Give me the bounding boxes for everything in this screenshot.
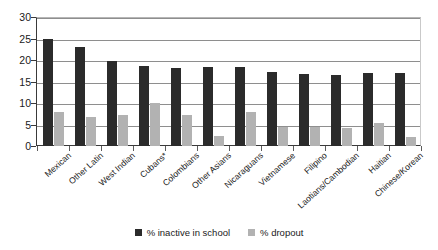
bar-group: [133, 17, 165, 146]
bar-group: [229, 17, 261, 146]
bar-inactive-in-school: [75, 47, 85, 146]
bar-group: [69, 17, 101, 146]
bar-group: [325, 17, 357, 146]
y-tick-label: 5: [3, 119, 31, 130]
bar-dropout: [150, 103, 160, 146]
chart-legend: % inactive in school % dropout: [0, 228, 438, 238]
legend-item-dropout[interactable]: % dropout: [248, 228, 303, 238]
bar-inactive-in-school: [171, 68, 181, 146]
x-axis-label: Haitian: [367, 151, 393, 176]
bar-inactive-in-school: [43, 39, 53, 147]
bar-group: [357, 17, 389, 146]
legend-label: % dropout: [260, 228, 303, 238]
bar-inactive-in-school: [331, 75, 341, 146]
bar-group: [101, 17, 133, 146]
bar-dropout: [182, 115, 192, 146]
x-axis-label: Laotians/Cambodian: [296, 151, 361, 211]
x-axis-label-text: Laotians/Cambodian: [296, 151, 361, 211]
bar-group: [37, 17, 69, 146]
bar-inactive-in-school: [107, 61, 117, 146]
bar-dropout: [278, 127, 288, 146]
bar-group: [165, 17, 197, 146]
x-axis-label-text: Haitian: [367, 151, 393, 176]
legend-label: % inactive in school: [147, 228, 230, 238]
bar-inactive-in-school: [299, 74, 309, 146]
x-tick: [421, 146, 422, 151]
y-tick-label: 20: [3, 55, 31, 66]
y-tick-label: 0: [3, 141, 31, 152]
legend-swatch-icon: [135, 229, 142, 236]
bar-inactive-in-school: [267, 72, 277, 146]
bar-group: [293, 17, 325, 146]
x-axis-labels: MexicanOther LatinWest IndianCubans*Colo…: [37, 151, 421, 219]
y-tick-label: 25: [3, 33, 31, 44]
bar-dropout: [406, 137, 416, 146]
bar-dropout: [342, 128, 352, 146]
bar-dropout: [246, 112, 256, 146]
y-tick-label: 15: [3, 76, 31, 87]
bar-inactive-in-school: [395, 73, 405, 146]
bar-inactive-in-school: [363, 73, 373, 146]
bar-chart: 30 25 20 15 10 5 0 MexicanOther LatinWes…: [0, 0, 438, 250]
bar-inactive-in-school: [235, 67, 245, 146]
bar-dropout: [54, 112, 64, 146]
legend-item-inactive[interactable]: % inactive in school: [135, 228, 230, 238]
bar-group: [261, 17, 293, 146]
legend-swatch-icon: [248, 229, 255, 236]
x-axis-label-text: Filipino: [303, 151, 330, 176]
y-tick-label: 10: [3, 98, 31, 109]
bar-inactive-in-school: [203, 67, 213, 146]
y-tick-label: 30: [3, 12, 31, 23]
bar-inactive-in-school: [139, 66, 149, 146]
x-axis-label: Filipino: [303, 151, 330, 176]
bar-dropout: [374, 123, 384, 146]
bar-dropout: [310, 127, 320, 146]
bar-dropout: [86, 117, 96, 146]
bar-dropout: [118, 115, 128, 146]
y-axis-labels: 30 25 20 15 10 5 0: [0, 17, 31, 146]
bar-group: [389, 17, 421, 146]
bars-layer: [37, 17, 421, 146]
bar-dropout: [214, 136, 224, 146]
bar-group: [197, 17, 229, 146]
